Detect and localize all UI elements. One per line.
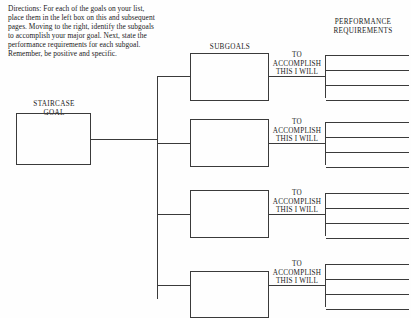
- requirement-rule: [326, 167, 409, 168]
- requirement-row[interactable]: [326, 153, 409, 167]
- requirement-row[interactable]: [326, 295, 409, 309]
- subgoal-box-2[interactable]: [190, 119, 269, 167]
- requirement-row[interactable]: [326, 86, 409, 100]
- requirement-group-3[interactable]: [325, 193, 409, 236]
- requirement-row[interactable]: [326, 138, 409, 152]
- requirement-group-4[interactable]: [325, 264, 409, 307]
- requirement-row[interactable]: [326, 280, 409, 294]
- staircase-goal-box[interactable]: [16, 113, 91, 165]
- branch-line-4: [157, 285, 190, 286]
- accomplish-caption-3: TO ACCOMPLISH THIS I WILL: [266, 189, 328, 215]
- requirement-row[interactable]: [326, 265, 409, 279]
- requirement-group-2[interactable]: [325, 122, 409, 165]
- requirement-row[interactable]: [326, 209, 409, 223]
- goal-stem-line: [91, 139, 157, 140]
- requirement-row[interactable]: [326, 71, 409, 85]
- branch-line-2: [157, 143, 190, 144]
- requirement-rule: [326, 309, 409, 310]
- subgoal-box-1[interactable]: [190, 53, 269, 101]
- worksheet-page: Directions: For each of the goals on you…: [0, 0, 411, 318]
- requirement-row[interactable]: [326, 194, 409, 208]
- heading-performance-requirements: PERFORMANCE REQUIREMENTS: [320, 18, 406, 35]
- subgoal-box-4[interactable]: [190, 271, 269, 318]
- heading-subgoals: SUBGOALS: [190, 43, 270, 52]
- requirement-row[interactable]: [326, 56, 409, 70]
- requirement-rule: [326, 238, 409, 239]
- branch-line-3: [157, 214, 190, 215]
- branch-line-1: [157, 76, 190, 77]
- subgoal-box-3[interactable]: [190, 190, 269, 238]
- requirement-row[interactable]: [326, 123, 409, 137]
- requirement-group-1[interactable]: [325, 55, 409, 98]
- accomplish-caption-1: TO ACCOMPLISH THIS I WILL: [266, 51, 328, 77]
- requirement-row[interactable]: [326, 224, 409, 238]
- directions-text: Directions: For each of the goals on you…: [8, 4, 160, 58]
- accomplish-caption-4: TO ACCOMPLISH THIS I WILL: [266, 260, 328, 286]
- accomplish-caption-2: TO ACCOMPLISH THIS I WILL: [266, 118, 328, 144]
- requirement-rule: [326, 100, 409, 101]
- trunk-line: [157, 76, 158, 299]
